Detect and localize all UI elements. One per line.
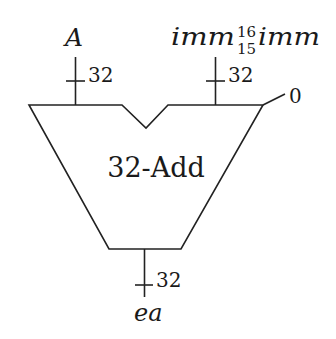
input-imm-subscript: 15 xyxy=(237,40,256,58)
input-a-width: 32 xyxy=(88,63,113,87)
adder-label: 32-Add xyxy=(107,152,205,183)
output-width: 32 xyxy=(156,268,181,292)
carry-in-wire xyxy=(263,94,285,105)
input-imm-superscript: 16 xyxy=(237,23,256,41)
input-a: 32 A xyxy=(63,23,113,105)
output-ea: 32 ea xyxy=(134,249,181,327)
input-imm-width: 32 xyxy=(228,63,253,87)
adder-diagram: 32-Add 32 A 32 imm 16 15 imm 0 32 ea xyxy=(0,0,336,339)
carry-in: 0 xyxy=(263,84,302,108)
input-a-label: A xyxy=(63,23,83,52)
input-imm-label-main: imm xyxy=(171,23,235,51)
output-label: ea xyxy=(134,299,163,327)
carry-in-value: 0 xyxy=(289,84,302,108)
input-imm-label-tail: imm xyxy=(258,23,320,51)
